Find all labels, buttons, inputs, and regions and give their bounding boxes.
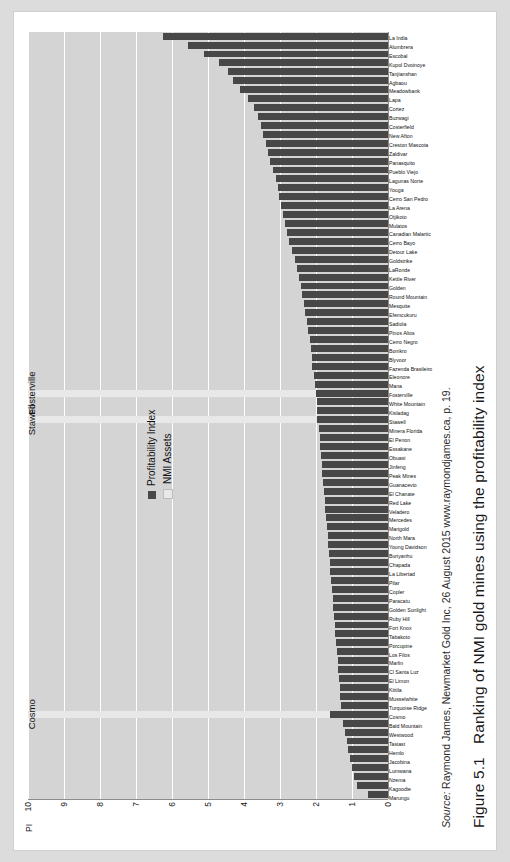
bar-column bbox=[28, 433, 388, 442]
category-label: La Arena bbox=[389, 206, 410, 211]
category-label: Turquoise Ridge bbox=[389, 706, 427, 711]
category-tick: Kisladag bbox=[388, 407, 414, 416]
y-tick-3: 3 bbox=[275, 802, 285, 828]
category-tick: Obuasi bbox=[388, 451, 414, 460]
category-tick: Guanacevio bbox=[388, 478, 414, 487]
bar-column bbox=[28, 451, 388, 460]
y-tick-5: 5 bbox=[203, 802, 213, 828]
category-label: Kettle River bbox=[389, 277, 416, 282]
bar-profitability-index bbox=[336, 639, 388, 646]
bar-column bbox=[28, 745, 388, 754]
bar-profitability-index bbox=[304, 300, 388, 307]
category-label: Cortez bbox=[389, 107, 404, 112]
category-label: Tasiast bbox=[389, 742, 405, 747]
bar-column bbox=[28, 737, 388, 746]
category-tick: Fort Knox bbox=[388, 621, 414, 630]
bar-column bbox=[28, 683, 388, 692]
bar-profitability-index bbox=[315, 381, 388, 388]
bar-profitability-index bbox=[312, 363, 388, 370]
bar-column bbox=[28, 505, 388, 514]
category-tick: Fosterville bbox=[388, 389, 414, 398]
bar-column bbox=[28, 157, 388, 166]
bar-profitability-index bbox=[240, 86, 388, 93]
category-label: Alumbrera bbox=[389, 45, 413, 50]
bar-profitability-index bbox=[163, 33, 388, 40]
bar-column bbox=[28, 406, 388, 415]
figure-number: Figure 5.1 bbox=[470, 757, 487, 828]
bar-profitability-index bbox=[331, 577, 388, 584]
bar-column bbox=[28, 603, 388, 612]
bar-profitability-index bbox=[326, 514, 388, 521]
category-tick: Minera Florida bbox=[388, 425, 414, 434]
bar-column bbox=[28, 121, 388, 130]
category-tick: Hemlo bbox=[388, 746, 414, 755]
category-label: El Limon bbox=[389, 679, 409, 684]
bar-profitability-index bbox=[188, 42, 388, 49]
bar-profitability-index bbox=[345, 729, 388, 736]
legend-item-profitability-index: Profitability Index bbox=[146, 410, 157, 499]
bar-profitability-index bbox=[281, 202, 388, 209]
category-tick: Tabakoto bbox=[388, 630, 414, 639]
bar-profitability-index bbox=[354, 773, 388, 780]
category-label: Pueblo Viejo bbox=[389, 170, 418, 175]
category-label: Cerro Bayo bbox=[389, 241, 415, 246]
bar-column bbox=[28, 469, 388, 478]
category-label: Chapada bbox=[389, 563, 410, 568]
bar-column bbox=[28, 656, 388, 665]
y-tick-4: 4 bbox=[239, 802, 249, 828]
category-tick: Cl Santa Luz bbox=[388, 666, 414, 675]
category-tick: Zaldivar bbox=[388, 148, 414, 157]
category-label: Bonikro bbox=[389, 349, 407, 354]
bar-profitability-index bbox=[357, 782, 388, 789]
category-label: Golden Sunlight bbox=[389, 608, 426, 613]
bar-profitability-index bbox=[204, 51, 388, 58]
source-prefix: Source: bbox=[440, 792, 452, 828]
bar-column bbox=[28, 50, 388, 59]
category-tick: Lagunas Norte bbox=[388, 174, 414, 183]
bar-profitability-index bbox=[341, 702, 388, 709]
category-label: Lagunas Norte bbox=[389, 179, 423, 184]
category-tick: El Penon bbox=[388, 434, 414, 443]
category-tick: Marungu bbox=[388, 791, 414, 800]
category-label: Mana bbox=[389, 384, 402, 389]
bar-column bbox=[28, 237, 388, 246]
bar-profitability-index bbox=[352, 764, 388, 771]
bar-column bbox=[28, 255, 388, 264]
bar-profitability-index bbox=[317, 407, 388, 414]
bar-profitability-index bbox=[340, 693, 388, 700]
y-tick-7: 7 bbox=[131, 802, 141, 828]
category-label: North Mara bbox=[389, 536, 415, 541]
category-tick: Bald Mountain bbox=[388, 720, 414, 729]
category-tick: Escobal bbox=[388, 49, 414, 58]
category-label: Paracatu bbox=[389, 599, 410, 604]
bar-column bbox=[28, 790, 388, 799]
bar-profitability-index bbox=[283, 211, 388, 218]
category-label: Guanacevio bbox=[389, 483, 417, 488]
chart-figure: PI 012345678910 CosmoStawellFosterville … bbox=[24, 32, 414, 830]
category-tick: Peak Mines bbox=[388, 469, 414, 478]
category-tick: La Libertad bbox=[388, 568, 414, 577]
bar-profitability-index bbox=[320, 434, 388, 441]
category-label: Creston Mascota bbox=[389, 143, 428, 148]
y-tick-0: 0 bbox=[383, 802, 393, 828]
category-label: Musselwhite bbox=[389, 697, 418, 702]
category-label: Eleonore bbox=[389, 375, 410, 380]
bar-column bbox=[28, 754, 388, 763]
bar-profitability-index bbox=[219, 59, 388, 66]
bar-profitability-index bbox=[278, 184, 388, 191]
category-label: Round Mountain bbox=[389, 295, 427, 300]
category-label: Porcupine bbox=[389, 644, 412, 649]
bar-profitability-index bbox=[295, 256, 388, 263]
bar-profitability-index bbox=[273, 167, 388, 174]
source-text: Raymond James, Newmarket Gold Inc, 26 Au… bbox=[440, 387, 452, 789]
category-label: Copler bbox=[389, 590, 404, 595]
category-label: Cerro Negro bbox=[389, 340, 418, 345]
bar-profitability-index bbox=[289, 238, 388, 245]
bar-column bbox=[28, 621, 388, 630]
category-tick: Pinos Altos bbox=[388, 326, 414, 335]
category-label: Kagoodie bbox=[389, 787, 411, 792]
category-tick: Ruby Hill bbox=[388, 612, 414, 621]
legend-item-nmi-assets: NMI Assets bbox=[162, 410, 173, 499]
category-label: Zaldivar bbox=[389, 152, 407, 157]
bar-profitability-index bbox=[325, 506, 388, 513]
